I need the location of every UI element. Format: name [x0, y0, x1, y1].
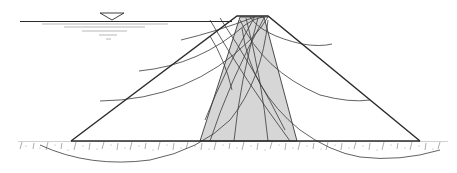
foundation-soil [18, 142, 448, 151]
dam-cross-section-diagram [0, 0, 457, 173]
water-level-triangle-icon [100, 13, 124, 20]
